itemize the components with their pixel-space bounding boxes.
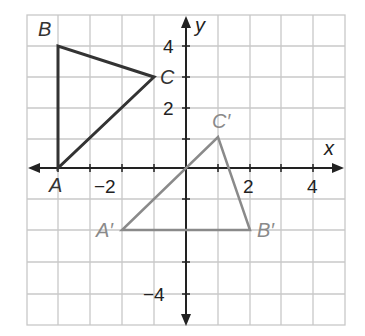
vertex-label-c: C: [160, 66, 175, 88]
vertex-label-b: B: [38, 18, 51, 40]
vertex-label-c-prime: C′: [212, 110, 231, 132]
y-tick-label-2: 2: [163, 98, 174, 119]
x-tick-label-4: 4: [307, 176, 318, 197]
coordinate-plane: y x −2 2 4 4 2 −4 B C A A′ B′ C′: [0, 0, 365, 336]
vertex-label-a: A: [48, 174, 62, 196]
axes: [28, 16, 344, 326]
vertex-label-b-prime: B′: [257, 219, 275, 241]
x-axis-label: x: [323, 137, 335, 159]
triangle-abc: [58, 46, 154, 168]
x-tick-label-neg2: −2: [94, 176, 116, 197]
x-tick-label-2: 2: [243, 176, 254, 197]
y-tick-label-neg4: −4: [143, 284, 165, 305]
vertex-label-a-prime: A′: [95, 219, 114, 241]
y-tick-label-4: 4: [163, 36, 174, 57]
y-axis-label: y: [193, 14, 206, 36]
